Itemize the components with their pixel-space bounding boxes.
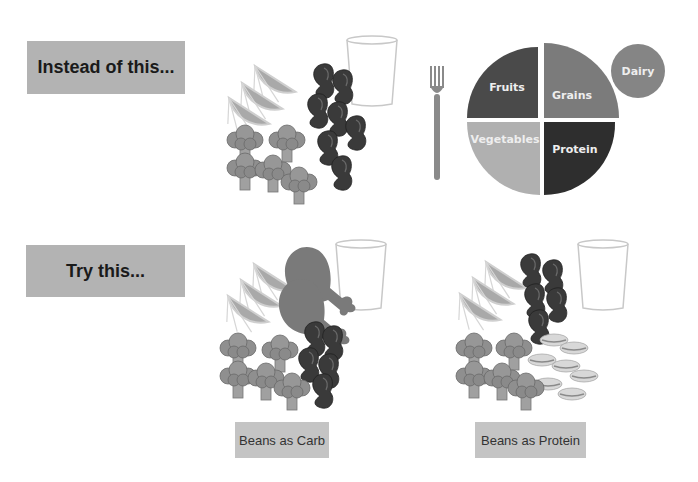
svg-text:Vegetables: Vegetables <box>470 133 539 146</box>
beans-as-carb-caption: Beans as Carb <box>235 422 329 458</box>
beans-icon <box>308 64 366 190</box>
pie-segment-fruits: Fruits <box>467 47 538 118</box>
myplate-chart: Fruits Grains Vegetables Protein <box>467 47 617 197</box>
broccoli-icon <box>220 333 310 410</box>
orange-slices-icon <box>446 260 526 336</box>
pie-segment-protein: Protein <box>544 122 615 195</box>
try-this-label: Try this... <box>26 245 185 297</box>
dairy-circle: Dairy <box>611 44 671 104</box>
broccoli-icon <box>227 125 317 204</box>
beans-as-carb-text: Beans as Carb <box>239 433 325 448</box>
svg-text:Grains: Grains <box>552 89 592 102</box>
instead-of-this-label: Instead of this... <box>27 41 185 94</box>
pie-segment-grains: Grains <box>544 43 619 118</box>
pie-segment-vegetables: Vegetables <box>467 122 540 195</box>
plate-instead-illustration <box>215 28 405 208</box>
try-this-text: Try this... <box>66 261 145 282</box>
svg-text:Protein: Protein <box>552 143 597 156</box>
fork-icon <box>428 66 448 186</box>
svg-text:Fruits: Fruits <box>489 81 525 94</box>
plate-beans-as-protein-illustration <box>450 236 650 416</box>
beans-icon <box>521 254 567 344</box>
beans-as-protein-text: Beans as Protein <box>481 433 580 448</box>
glass-icon <box>578 240 628 310</box>
svg-text:Dairy: Dairy <box>622 65 655 78</box>
beans-as-protein-caption: Beans as Protein <box>475 422 586 458</box>
broccoli-icon <box>456 333 544 410</box>
glass-icon <box>347 36 397 106</box>
instead-of-this-text: Instead of this... <box>37 57 174 78</box>
plate-beans-as-carb-illustration <box>210 236 400 416</box>
